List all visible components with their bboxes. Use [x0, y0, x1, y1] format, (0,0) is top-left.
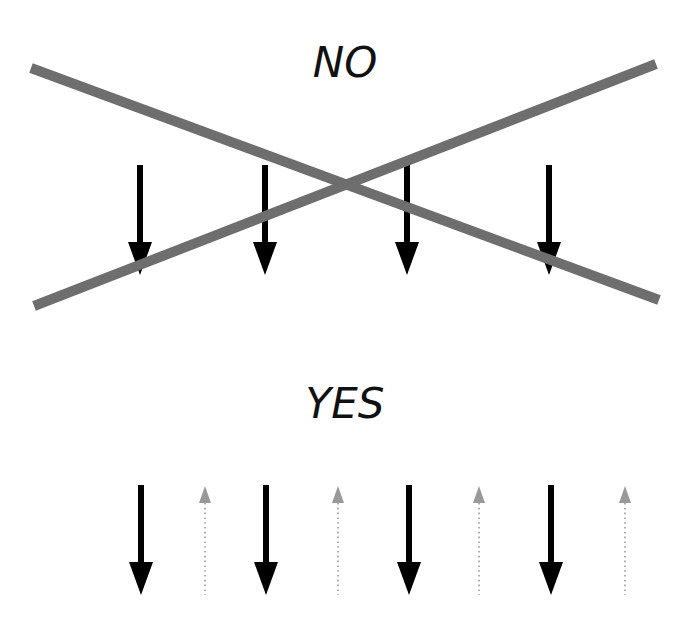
no-panel: NO [31, 38, 659, 306]
up-arrow-icon [332, 486, 344, 595]
up-arrow-icon [619, 486, 631, 595]
yes-label: YES [306, 379, 385, 428]
down-arrow-icon [254, 485, 278, 595]
down-arrow-icon [539, 485, 563, 595]
up-arrow-icon [199, 486, 211, 595]
diagram-canvas: NO YES [0, 0, 698, 628]
yes-panel: YES [129, 379, 631, 595]
down-arrow-icon [397, 485, 421, 595]
up-arrow-icon [473, 486, 485, 595]
down-arrow-icon [129, 485, 153, 595]
cross-out-mark [31, 64, 659, 306]
no-label: NO [313, 38, 377, 87]
down-arrow-icon [395, 165, 419, 275]
yes-arrows [129, 485, 631, 595]
